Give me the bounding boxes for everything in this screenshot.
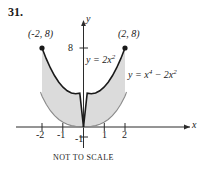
x-tick-label-1: 1 xyxy=(102,130,107,140)
x-tick-label--1: -1 xyxy=(57,130,65,140)
point-dot-right xyxy=(122,45,127,50)
curve-label-quartic: y = x4 − 2x2 xyxy=(128,69,177,80)
curve-label-parabola-exponent: 2 xyxy=(112,53,116,61)
y-axis-label: y xyxy=(86,14,90,24)
y-tick-label-8: 8 xyxy=(68,43,73,53)
curve-quartic-right-tail xyxy=(125,92,127,96)
curve-quartic-left-tail xyxy=(41,92,43,96)
figure-graph xyxy=(0,0,206,174)
figure-caption: NOT TO SCALE xyxy=(53,154,114,162)
x-axis-label: x xyxy=(192,120,196,130)
curve-label-quartic-exponent-2: 2 xyxy=(173,68,177,76)
curve-label-quartic-mid: − 2x xyxy=(152,69,173,80)
y-tick-label--1: -1 xyxy=(75,134,83,144)
curve-label-quartic-lead: y = x xyxy=(128,69,149,80)
problem-number: 31. xyxy=(8,6,23,18)
point-dot-left xyxy=(39,45,44,50)
point-label-right: (2, 8) xyxy=(118,29,140,39)
point-label-left: (-2, 8) xyxy=(28,29,53,39)
x-tick-label-2: 2 xyxy=(122,130,127,140)
curve-label-parabola-text: y = 2x xyxy=(86,54,112,65)
curve-label-parabola: y = 2x2 xyxy=(86,54,115,65)
x-tick-label--2: -2 xyxy=(36,130,44,140)
x-axis-arrowhead xyxy=(184,125,190,130)
